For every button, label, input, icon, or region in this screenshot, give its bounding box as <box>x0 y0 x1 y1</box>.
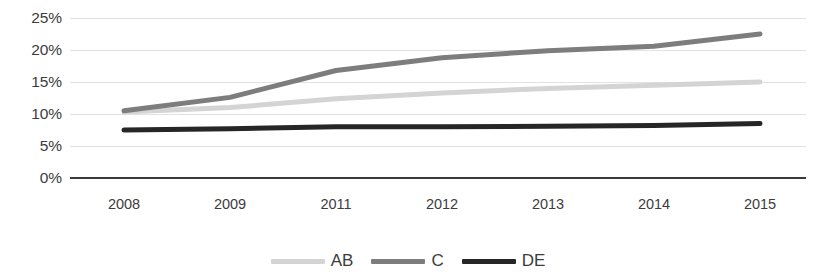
x-tick-label: 2011 <box>321 196 352 212</box>
series-line-de <box>124 124 760 130</box>
plot-area <box>70 18 806 178</box>
x-axis: 2008200920112012201320142015 <box>70 196 806 224</box>
series-layer <box>70 18 806 178</box>
legend-swatch-icon <box>271 259 325 264</box>
y-tick-label: 0% <box>0 169 62 187</box>
y-tick-label: 5% <box>0 137 62 155</box>
legend-item-c[interactable]: C <box>371 251 443 271</box>
y-tick-label: 20% <box>0 41 62 59</box>
series-line-c <box>124 34 760 111</box>
y-axis: 0%5%10%15%20%25% <box>0 0 62 196</box>
x-tick-label: 2013 <box>532 196 564 212</box>
legend-label: AB <box>331 251 354 271</box>
line-chart: 0%5%10%15%20%25% 20082009201120122013201… <box>0 0 816 276</box>
legend-swatch-icon <box>462 259 516 264</box>
legend-swatch-icon <box>371 259 425 264</box>
chart-legend: ABCDE <box>0 246 816 276</box>
x-tick-label: 2012 <box>426 196 458 212</box>
y-tick-label: 10% <box>0 105 62 123</box>
legend-label: C <box>431 251 443 271</box>
x-tick-label: 2008 <box>108 196 140 212</box>
y-tick-label: 15% <box>0 73 62 91</box>
x-tick-label: 2009 <box>214 196 246 212</box>
y-tick-label: 25% <box>0 9 62 27</box>
legend-label: DE <box>522 251 546 271</box>
x-tick-label: 2014 <box>638 196 670 212</box>
legend-item-de[interactable]: DE <box>462 251 546 271</box>
x-tick-label: 2015 <box>744 196 776 212</box>
legend-item-ab[interactable]: AB <box>271 251 354 271</box>
